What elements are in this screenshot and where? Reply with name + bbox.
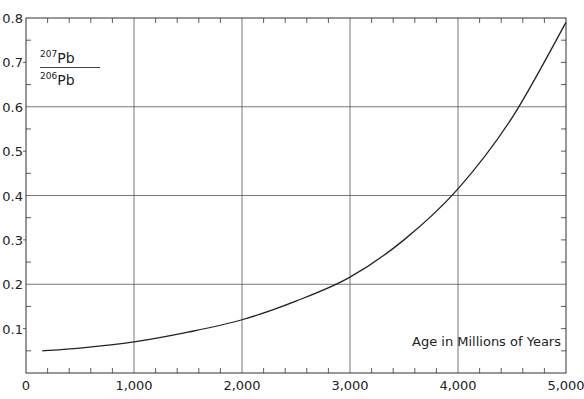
x-tick-label: 3,000 bbox=[331, 378, 368, 393]
y-tick-label: 0.1 bbox=[2, 322, 23, 337]
y-tick-label: 0.3 bbox=[2, 233, 23, 248]
x-axis-label: Age in Millions of Years bbox=[412, 334, 561, 349]
y-tick-label: 0.2 bbox=[2, 277, 23, 292]
y-tick-label: 0.5 bbox=[2, 144, 23, 159]
x-tick-label: 4,000 bbox=[439, 378, 476, 393]
y-axis-label: 207Pb 206Pb bbox=[40, 46, 100, 87]
y-tick-label: 0.8 bbox=[2, 11, 23, 26]
y-tick-label: 0.4 bbox=[2, 189, 23, 204]
x-tick-label: 2,000 bbox=[223, 378, 260, 393]
x-tick-label: 0 bbox=[22, 378, 30, 393]
data-curve bbox=[42, 22, 566, 350]
y-tick-label: 0.7 bbox=[2, 55, 23, 70]
x-tick-label: 5,000 bbox=[547, 378, 584, 393]
x-tick-label: 1,000 bbox=[115, 378, 152, 393]
y-tick-label: 0.6 bbox=[2, 100, 23, 115]
